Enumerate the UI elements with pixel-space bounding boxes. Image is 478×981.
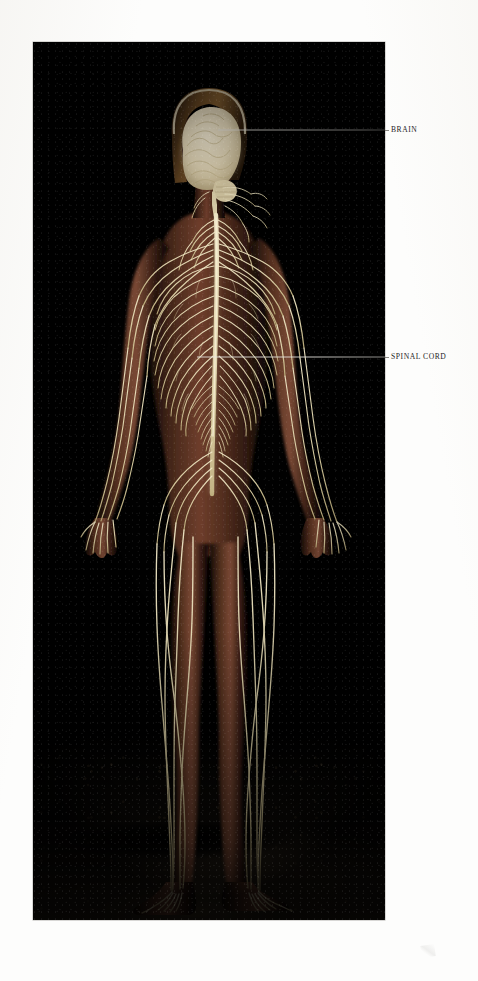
- scan-artifact: [420, 944, 436, 958]
- label-brain: BRAIN: [391, 125, 417, 134]
- brain-leader-line-paper: [385, 130, 389, 131]
- anatomy-plate: [33, 42, 385, 920]
- label-spinal-cord: SPINAL CORD: [391, 352, 446, 361]
- nervous-system-figure: [33, 42, 385, 920]
- page-canvas: BRAIN SPINAL CORD: [0, 0, 478, 981]
- body-silhouette: [85, 88, 333, 915]
- leg-nerves-right: [238, 523, 292, 911]
- spinal-cord-leader-line-paper: [385, 357, 389, 358]
- arm-nerves-left: [81, 348, 147, 554]
